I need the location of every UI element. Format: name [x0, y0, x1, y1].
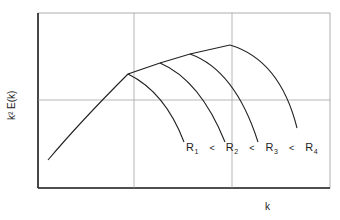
less-than-symbol: <	[289, 143, 295, 153]
plot-frame	[38, 13, 330, 188]
less-than-symbol: <	[209, 143, 215, 153]
legend-r1: R1	[186, 141, 199, 153]
y-axis-label: k² E(k)	[6, 91, 17, 120]
legend-r2: R2	[226, 141, 239, 153]
legend-inequality: R1 < R2 < R3 < R4	[186, 141, 318, 155]
legend-r3: R3	[266, 141, 279, 153]
curve-r1	[128, 74, 184, 142]
chart-canvas	[0, 0, 340, 220]
x-axis-label: k	[265, 201, 270, 212]
legend-r4: R4	[305, 141, 318, 153]
curve-r3	[190, 54, 258, 142]
less-than-symbol: <	[249, 143, 255, 153]
curve-r4	[230, 45, 297, 128]
curve-r2	[160, 63, 225, 142]
